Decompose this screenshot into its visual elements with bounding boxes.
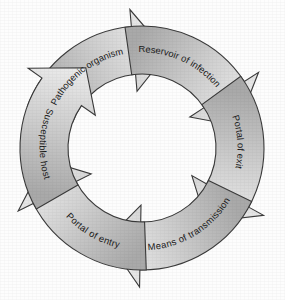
cycle-diagram-canvas: Pathogenic organismReservoir of infectio… (0, 0, 285, 300)
chain-of-infection-diagram: Pathogenic organismReservoir of infectio… (0, 0, 285, 300)
